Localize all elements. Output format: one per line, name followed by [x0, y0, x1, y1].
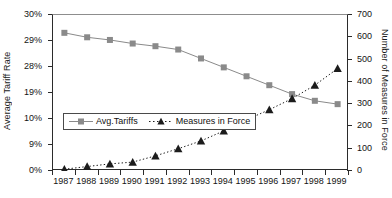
left-axis-tick-label: 0% — [29, 166, 42, 175]
left-axis-tick-labels: 30%29%28%19%10%9%0% — [16, 0, 46, 198]
x-axis-tick-label: 1999 — [327, 176, 347, 186]
square-marker-icon — [69, 117, 93, 126]
right-axis-tick-label: 700 — [357, 10, 372, 19]
x-axis-tick-label: 1998 — [304, 176, 324, 186]
triangle-marker — [311, 81, 319, 89]
x-axis-tick-label: 1991 — [144, 176, 164, 186]
triangle-marker — [197, 137, 205, 145]
triangle-marker — [151, 152, 159, 160]
square-marker — [61, 30, 67, 36]
square-marker — [84, 34, 90, 40]
x-axis-tick-label: 1994 — [213, 176, 233, 186]
square-marker — [152, 43, 158, 49]
chart-figure: Average Tariff Rate Number of Measures i… — [0, 0, 392, 198]
square-marker — [312, 98, 318, 104]
left-axis-tick-label: 19% — [24, 88, 42, 97]
left-axis-tick-label: 9% — [29, 140, 42, 149]
x-axis-tick-label: 1992 — [167, 176, 187, 186]
right-axis-tick-label: 200 — [357, 121, 372, 130]
right-axis-tick-label: 600 — [357, 32, 372, 41]
square-marker — [266, 82, 272, 88]
x-axis-tick-label: 1990 — [122, 176, 142, 186]
triangle-marker — [128, 158, 136, 166]
x-axis-tick-label: 1988 — [76, 176, 96, 186]
right-axis-title: Number of Measures in Force — [378, 4, 392, 176]
square-marker — [198, 55, 204, 61]
square-marker — [175, 47, 181, 53]
square-marker — [335, 101, 341, 107]
triangle-marker — [60, 165, 68, 171]
triangle-marker — [265, 106, 273, 114]
left-axis-tick-label: 28% — [24, 62, 42, 71]
legend-label-measures-in-force: Measures in Force — [176, 117, 251, 126]
triangle-marker — [174, 145, 182, 153]
left-axis-tick-label: 30% — [24, 10, 42, 19]
x-axis-tick-label: 1989 — [99, 176, 119, 186]
square-marker — [130, 41, 136, 47]
triangle-marker — [106, 160, 114, 168]
right-axis-tick-label: 500 — [357, 55, 372, 64]
right-axis-tick-labels: 7006005004003002001000 — [352, 0, 376, 198]
legend-item-avg-tariffs: Avg.Tariffs — [69, 117, 138, 126]
series-canvas — [53, 15, 349, 171]
square-marker — [107, 37, 113, 43]
left-axis-tick-label: 10% — [24, 114, 42, 123]
right-axis-tick-label: 100 — [357, 144, 372, 153]
x-axis-tick-labels: 1987198819891990199119921993199419951996… — [0, 176, 392, 192]
plot-area — [52, 14, 348, 170]
right-axis-tick-label: 0 — [357, 166, 362, 175]
square-marker — [244, 73, 250, 79]
x-axis-tick-label: 1993 — [190, 176, 210, 186]
left-axis-tick-label: 29% — [24, 36, 42, 45]
x-axis-tick-label: 1997 — [281, 176, 301, 186]
legend-label-avg-tariffs: Avg.Tariffs — [96, 117, 138, 126]
triangle-marker-icon — [149, 117, 173, 126]
square-marker — [221, 64, 227, 70]
legend-item-measures-in-force: Measures in Force — [149, 117, 251, 126]
triangle-marker — [333, 64, 341, 72]
right-axis-tick-label: 400 — [357, 77, 372, 86]
left-axis-title: Average Tariff Rate — [0, 0, 14, 182]
x-axis-tick-label: 1996 — [258, 176, 278, 186]
x-axis-tick-label: 1995 — [236, 176, 256, 186]
series-line — [64, 33, 337, 104]
right-axis-tick-label: 300 — [357, 99, 372, 108]
x-axis-tick-label: 1987 — [53, 176, 73, 186]
chart-legend: Avg.Tariffs Measures in Force — [63, 113, 256, 130]
